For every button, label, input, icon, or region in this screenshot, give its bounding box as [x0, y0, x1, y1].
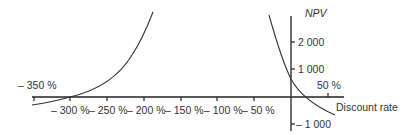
- x-tick-label-neg50: – 50 %: [242, 104, 275, 116]
- x-tick-label-neg200: – 200 %: [127, 104, 166, 116]
- npv-curve-left: [32, 12, 153, 105]
- y-tick-label-2000: 2 000: [298, 36, 324, 48]
- x-tick-label-neg300: – 300 %: [51, 104, 90, 116]
- x-tick-label-neg150: – 150 %: [165, 104, 204, 116]
- x-axis-label: Discount rate: [336, 101, 398, 113]
- y-tick-label-1000: 1 000: [298, 63, 324, 75]
- y-tick-label-neg1000: – 1 000: [296, 118, 331, 130]
- x-tick-label-neg100: – 100 %: [204, 104, 243, 116]
- x-tick-label-neg350: – 350 %: [18, 79, 57, 91]
- y-axis-label: NPV: [305, 7, 328, 19]
- x-tick-label-50: 50 %: [317, 79, 341, 91]
- x-tick-label-neg250: – 250 %: [89, 104, 128, 116]
- npv-chart: NPV 2 000 1 000 – 1 000 – 350 % – 300 % …: [0, 0, 414, 135]
